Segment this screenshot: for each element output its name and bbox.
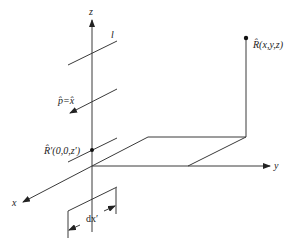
x-axis [23,166,92,202]
observation-point-label: R̂(x,y,z) [252,38,284,51]
line-label: l [111,29,114,40]
source-point-label: R̂′(0,0,z′) [43,144,81,157]
parallelogram-right-edge [188,137,246,166]
polarization-arrow [70,89,117,113]
differential-label: dx′ [86,213,98,224]
diagram-canvas: z y x l p̂=x̂ R̂′(0,0,z′) R̂(x,y,z) dx′ [0,0,297,248]
observation-point-dot [244,36,248,40]
x-axis-label: x [11,197,17,208]
z-axis-label: z [88,6,93,17]
parallelogram-left-edge [92,137,148,166]
source-point-dot [90,148,94,152]
polarization-label: p̂=x̂ [57,95,75,106]
differential-arrow-right [104,206,115,211]
differential-arrow-left [69,225,80,230]
y-axis-label: y [273,160,279,171]
